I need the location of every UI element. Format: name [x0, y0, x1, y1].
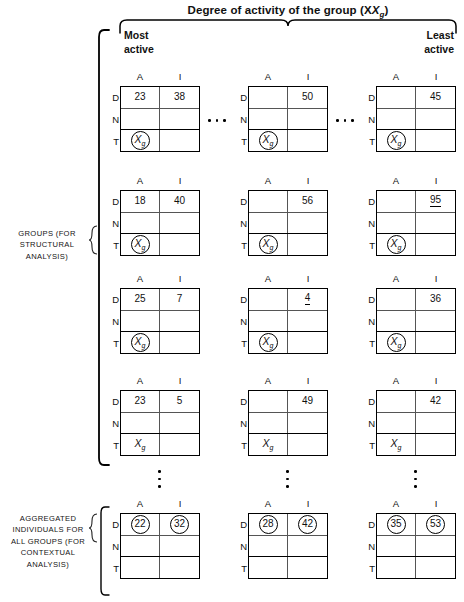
matrix-cell-n-i[interactable] — [288, 311, 327, 332]
matrix-cell-d-a[interactable] — [377, 289, 416, 310]
matrix-cell-t-i[interactable] — [416, 434, 455, 455]
matrix-cell-d-i[interactable]: 7 — [160, 289, 199, 310]
matrix-cell-n-a[interactable] — [377, 213, 416, 234]
matrix-cell-t-i[interactable] — [416, 130, 455, 151]
matrix-cell-n-a[interactable] — [249, 413, 288, 434]
matrix-cell-n-a[interactable] — [121, 311, 160, 332]
matrix-cell-d-i[interactable]: 53 — [416, 514, 455, 535]
matrix-cell-d-a[interactable]: 35 — [377, 514, 416, 535]
matrix-cell-n-i[interactable] — [160, 213, 199, 234]
matrix-cell-d-i[interactable]: 45 — [416, 87, 455, 108]
matrix-cell-t-i[interactable] — [288, 434, 327, 455]
matrix-cell-n-a[interactable] — [377, 536, 416, 557]
matrix-cell-d-i[interactable]: 42 — [288, 514, 327, 535]
matrix-cell-t-a[interactable] — [249, 557, 288, 578]
matrix-cell-t-i[interactable] — [160, 332, 199, 353]
matrix-cell-n-a[interactable] — [377, 311, 416, 332]
matrix-cell-d-i[interactable]: 56 — [288, 191, 327, 212]
matrix-cell-d-a[interactable]: 25 — [121, 289, 160, 310]
matrix-cell-d-i[interactable]: 50 — [288, 87, 327, 108]
matrix-row-t — [121, 556, 199, 578]
matrix-cell-t-a[interactable]: Xg — [249, 234, 288, 255]
matrix-cell-n-a[interactable] — [121, 536, 160, 557]
matrix-cell-t-i[interactable] — [288, 332, 327, 353]
matrix-cell-d-i[interactable]: 36 — [416, 289, 455, 310]
matrix-cell-n-a[interactable] — [121, 413, 160, 434]
matrix-cell-n-a[interactable] — [249, 109, 288, 130]
matrix-cell-d-a[interactable] — [377, 391, 416, 412]
matrix-row-d: 56 — [249, 191, 327, 213]
matrix-cell-d-a[interactable] — [249, 191, 288, 212]
matrix-cell-d-i[interactable]: 42 — [416, 391, 455, 412]
matrix-cell-n-i[interactable] — [416, 213, 455, 234]
matrix-cell-t-i[interactable] — [416, 234, 455, 255]
cell-value: 38 — [174, 92, 185, 102]
matrix-cell-d-i[interactable]: 49 — [288, 391, 327, 412]
matrix-groups-r0-c1: AIDNT50Xg — [248, 86, 328, 152]
matrix-cell-d-a[interactable] — [377, 87, 416, 108]
matrix-cell-d-a[interactable] — [249, 87, 288, 108]
vertical-ellipsis-2 — [414, 470, 417, 488]
matrix-cell-t-i[interactable] — [288, 557, 327, 578]
matrix-cell-t-i[interactable] — [160, 557, 199, 578]
matrix-cell-d-i[interactable]: 32 — [160, 514, 199, 535]
matrix-cell-t-i[interactable] — [288, 234, 327, 255]
matrix-cell-t-a[interactable] — [121, 557, 160, 578]
matrix-cell-t-i[interactable] — [288, 130, 327, 151]
matrix-cell-d-a[interactable]: 22 — [121, 514, 160, 535]
matrix-cell-t-a[interactable]: Xg — [377, 130, 416, 151]
matrix-cell-d-a[interactable]: 18 — [121, 191, 160, 212]
matrix-cell-n-i[interactable] — [416, 109, 455, 130]
matrix-cell-n-a[interactable] — [121, 109, 160, 130]
matrix-cell-t-a[interactable]: Xg — [121, 234, 160, 255]
matrix-cell-d-a[interactable]: 28 — [249, 514, 288, 535]
matrix-cell-n-a[interactable] — [249, 311, 288, 332]
matrix-groups-r2-c1: AIDNT4Xg — [248, 288, 328, 354]
matrix-cell-n-a[interactable] — [249, 536, 288, 557]
matrix-cell-n-i[interactable] — [288, 109, 327, 130]
column-header-a: A — [248, 176, 288, 186]
matrix-cell-d-a[interactable]: 23 — [121, 391, 160, 412]
matrix-cell-t-a[interactable]: Xg — [377, 434, 416, 455]
matrix-cell-t-i[interactable] — [416, 557, 455, 578]
matrix-cell-d-i[interactable]: 95 — [416, 191, 455, 212]
matrix-cell-n-i[interactable] — [416, 311, 455, 332]
matrix-cell-d-a[interactable]: 23 — [121, 87, 160, 108]
matrix-cell-t-a[interactable] — [377, 557, 416, 578]
matrix-cell-n-a[interactable] — [377, 109, 416, 130]
matrix-cell-d-a[interactable] — [377, 191, 416, 212]
matrix-cell-d-a[interactable] — [249, 391, 288, 412]
matrix-cell-t-a[interactable]: Xg — [121, 332, 160, 353]
matrix-cell-n-a[interactable] — [377, 413, 416, 434]
matrix-cell-n-i[interactable] — [416, 536, 455, 557]
matrix-cell-t-a[interactable]: Xg — [121, 130, 160, 151]
matrix-cell-n-a[interactable] — [121, 213, 160, 234]
matrix-cell-t-i[interactable] — [160, 434, 199, 455]
matrix-cell-n-i[interactable] — [160, 413, 199, 434]
matrix-cell-n-i[interactable] — [160, 536, 199, 557]
matrix-cell-t-i[interactable] — [416, 332, 455, 353]
matrix-cell-t-a[interactable]: Xg — [377, 332, 416, 353]
matrix-cell-d-i[interactable]: 40 — [160, 191, 199, 212]
matrix-cell-n-i[interactable] — [416, 413, 455, 434]
matrix-cell-d-i[interactable]: 38 — [160, 87, 199, 108]
matrix-cell-d-i[interactable]: 5 — [160, 391, 199, 412]
matrix-cell-t-a[interactable]: Xg — [249, 130, 288, 151]
column-header-i: I — [288, 72, 328, 82]
matrix-cell-t-i[interactable] — [160, 130, 199, 151]
matrix-cell-t-a[interactable]: Xg — [377, 234, 416, 255]
matrix-cell-n-a[interactable] — [249, 213, 288, 234]
matrix-cell-n-i[interactable] — [160, 109, 199, 130]
matrix-cell-n-i[interactable] — [160, 311, 199, 332]
matrix-cell-n-i[interactable] — [288, 213, 327, 234]
matrix-cell-n-i[interactable] — [288, 536, 327, 557]
matrix-cell-d-i[interactable]: 4 — [288, 289, 327, 310]
matrix-cell-t-a[interactable]: Xg — [249, 434, 288, 455]
row-header-t: T — [365, 557, 375, 579]
matrix-cell-t-a[interactable]: Xg — [249, 332, 288, 353]
matrix-cell-t-i[interactable] — [160, 234, 199, 255]
matrix-cell-d-a[interactable] — [249, 289, 288, 310]
circled-value: 28 — [259, 515, 278, 534]
matrix-cell-t-a[interactable]: Xg — [121, 434, 160, 455]
matrix-cell-n-i[interactable] — [288, 413, 327, 434]
